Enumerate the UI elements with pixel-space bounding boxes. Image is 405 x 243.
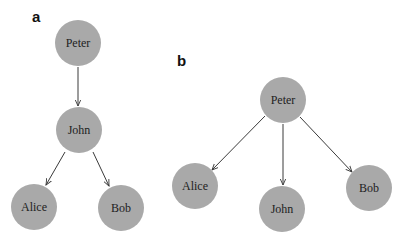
node-b-bob: Bob — [346, 165, 392, 211]
node-label: John — [271, 202, 294, 216]
panel-a-nodes: Peter John Alice Bob — [11, 20, 144, 231]
node-label: Peter — [271, 93, 296, 107]
node-label: Bob — [111, 201, 131, 215]
node-label: John — [68, 123, 91, 137]
panel-b-edges — [212, 116, 352, 185]
node-b-peter: Peter — [260, 77, 306, 123]
panel-b-nodes: Peter Alice John Bob — [172, 77, 392, 232]
node-label: Alice — [21, 200, 47, 214]
node-b-alice: Alice — [172, 163, 218, 209]
node-a-john: John — [56, 107, 102, 153]
node-label: Bob — [359, 181, 379, 195]
node-label: Peter — [66, 36, 91, 50]
edge-b-peter-alice — [212, 116, 265, 170]
edge-b-peter-bob — [300, 117, 352, 172]
node-b-john: John — [259, 186, 305, 232]
edge-a-john-alice — [46, 152, 65, 185]
node-a-alice: Alice — [11, 184, 57, 230]
edge-a-john-bob — [93, 152, 109, 186]
node-a-peter: Peter — [55, 20, 101, 66]
node-label: Alice — [182, 179, 208, 193]
diagram-canvas: Peter John Alice Bob Peter Alice — [0, 0, 405, 243]
node-a-bob: Bob — [98, 185, 144, 231]
